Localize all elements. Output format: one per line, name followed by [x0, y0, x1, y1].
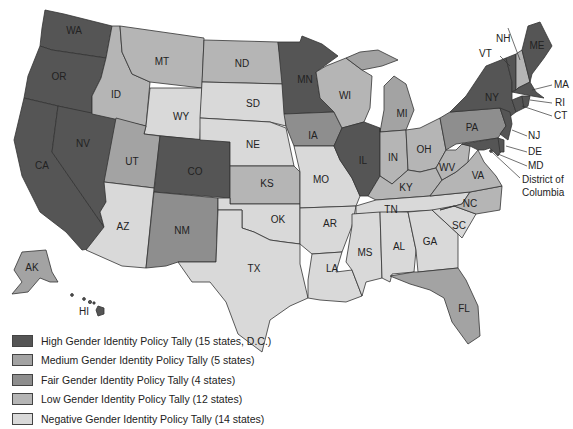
- legend-swatch-fair: [12, 374, 33, 386]
- label-PA: PA: [466, 122, 479, 133]
- label-AK: AK: [25, 262, 39, 273]
- label-IA: IA: [308, 130, 318, 141]
- label-MD: MD: [528, 160, 544, 171]
- legend-label-high: High Gender Identity Policy Tally (15 st…: [41, 335, 271, 347]
- label-NC: NC: [463, 198, 477, 209]
- state-MI[interactable]: [380, 76, 414, 132]
- label-WI: WI: [339, 90, 351, 101]
- legend-item-medium: Medium Gender Identity Policy Tally (5 s…: [12, 351, 271, 371]
- state-NY[interactable]: [450, 58, 516, 118]
- label-SD: SD: [246, 98, 260, 109]
- legend-swatch-low: [12, 393, 33, 405]
- label-CA: CA: [35, 160, 49, 171]
- legend-swatch-high: [12, 335, 33, 347]
- label-NH: NH: [496, 33, 510, 44]
- legend-item-negative: Negative Gender Identity Policy Tally (1…: [12, 409, 271, 429]
- legend-swatch-negative: [12, 413, 33, 425]
- label-DC-line2: Columbia: [522, 187, 565, 198]
- label-OK: OK: [271, 214, 286, 225]
- legend-label-low: Low Gender Identity Policy Tally (12 sta…: [41, 393, 242, 405]
- label-WV: WV: [439, 162, 455, 173]
- legend-label-negative: Negative Gender Identity Policy Tally (1…: [41, 413, 264, 425]
- label-MN: MN: [297, 74, 313, 85]
- label-MO: MO: [313, 174, 329, 185]
- legend-item-fair: Fair Gender Identity Policy Tally (4 sta…: [12, 370, 271, 390]
- label-LA: LA: [326, 263, 339, 274]
- label-TN: TN: [384, 204, 397, 215]
- label-WY: WY: [173, 111, 189, 122]
- label-ID: ID: [111, 89, 121, 100]
- label-KS: KS: [260, 178, 274, 189]
- label-CO: CO: [188, 166, 203, 177]
- legend-item-low: Low Gender Identity Policy Tally (12 sta…: [12, 390, 271, 410]
- state-AR[interactable]: [300, 206, 356, 254]
- label-SC: SC: [452, 220, 466, 231]
- label-AL: AL: [393, 241, 406, 252]
- label-KY: KY: [399, 182, 413, 193]
- label-OH: OH: [417, 144, 432, 155]
- label-MA: MA: [554, 79, 569, 90]
- state-DC[interactable]: [490, 150, 493, 153]
- label-TX: TX: [248, 263, 261, 274]
- label-MT: MT: [155, 56, 169, 67]
- legend-item-high: High Gender Identity Policy Tally (15 st…: [12, 331, 271, 351]
- label-UT: UT: [125, 156, 138, 167]
- label-OR: OR: [52, 71, 67, 82]
- label-HI: HI: [79, 306, 89, 317]
- label-NJ: NJ: [528, 130, 540, 141]
- label-NY: NY: [485, 92, 499, 103]
- legend-label-medium: Medium Gender Identity Policy Tally (5 s…: [41, 354, 254, 366]
- label-IN: IN: [388, 152, 398, 163]
- label-ND: ND: [235, 58, 249, 69]
- label-IL: IL: [359, 155, 368, 166]
- label-FL: FL: [458, 303, 470, 314]
- label-NM: NM: [174, 225, 190, 236]
- legend: High Gender Identity Policy Tally (15 st…: [12, 331, 271, 429]
- label-MI: MI: [396, 108, 407, 119]
- label-MS: MS: [358, 247, 373, 258]
- label-DC-line1: District of: [522, 174, 564, 185]
- label-VA: VA: [472, 170, 485, 181]
- label-ME: ME: [530, 40, 545, 51]
- legend-swatch-medium: [12, 354, 33, 366]
- label-NV: NV: [76, 138, 90, 149]
- label-CT: CT: [554, 110, 567, 121]
- label-WA: WA: [66, 25, 82, 36]
- label-VT: VT: [479, 48, 492, 59]
- legend-label-fair: Fair Gender Identity Policy Tally (4 sta…: [41, 374, 235, 386]
- label-AR: AR: [323, 218, 337, 229]
- label-AZ: AZ: [117, 221, 130, 232]
- label-RI: RI: [555, 97, 565, 108]
- label-NE: NE: [246, 139, 260, 150]
- label-GA: GA: [423, 236, 438, 247]
- label-DE: DE: [528, 146, 542, 157]
